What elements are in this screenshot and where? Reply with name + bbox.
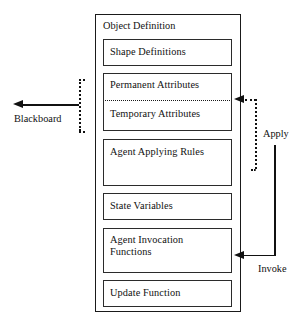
blackboard-dotted-bracket-bottom [79, 131, 85, 133]
invoke-line-vertical [274, 145, 276, 256]
apply-dotted-line [255, 99, 257, 169]
object-definition-title: Object Definition [103, 20, 175, 32]
apply-label: Apply [263, 128, 289, 140]
agent-applying-rules-label: Agent Applying Rules [110, 146, 204, 158]
apply-arrowhead-icon [234, 95, 244, 103]
update-function-label: Update Function [110, 287, 180, 299]
permanent-attributes-label: Permanent Attributes [110, 79, 199, 91]
blackboard-dotted-bracket [79, 79, 81, 131]
blackboard-arrow-line [22, 104, 79, 106]
agent-invocation-functions-label: Agent Invocation Functions [110, 234, 183, 259]
apply-dotted-elbow-bottom [251, 169, 256, 171]
apply-dotted-elbow-top [245, 99, 256, 101]
blackboard-dotted-bracket-top [79, 79, 85, 81]
invoke-label: Invoke [258, 263, 287, 275]
invoke-arrowhead-icon [234, 251, 244, 259]
attributes-divider [105, 100, 230, 101]
state-variables-label: State Variables [110, 200, 173, 212]
temporary-attributes-label: Temporary Attributes [110, 108, 200, 120]
blackboard-arrowhead-icon [13, 100, 23, 108]
shape-definitions-label: Shape Definitions [110, 46, 186, 58]
invoke-line-horizontal [244, 255, 276, 257]
blackboard-label: Blackboard [14, 113, 61, 125]
object-definition-diagram: Object Definition Shape Definitions Perm… [0, 0, 305, 329]
